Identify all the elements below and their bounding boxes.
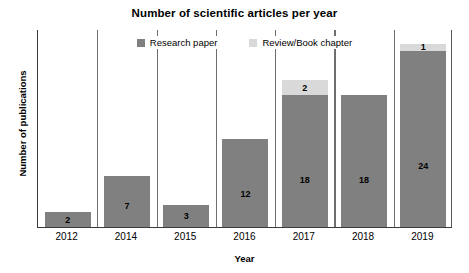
bar-slot: 18	[334, 30, 393, 227]
bar-stack[interactable]: 18	[341, 95, 387, 227]
bar-value-label: 2	[45, 216, 91, 225]
bar-slot: 2	[38, 30, 97, 227]
bar-segment-review-book-chapter[interactable]: 1	[400, 44, 446, 51]
bar-slot: 182	[275, 30, 334, 227]
bar-slot: 3	[157, 30, 216, 227]
bar-value-label: 24	[400, 162, 446, 171]
y-axis-title: Number of publications	[17, 44, 28, 204]
bar-stack[interactable]: 2	[45, 212, 91, 227]
bar-slot: 241	[394, 30, 453, 227]
x-axis-title: Year	[37, 253, 452, 264]
x-tick-label: 2015	[156, 231, 215, 242]
bar-value-label: 18	[282, 176, 328, 185]
x-tick-label: 2012	[37, 231, 96, 242]
x-tick-label: 2019	[393, 231, 452, 242]
bar-segment-research-paper[interactable]: 18	[341, 95, 387, 227]
bar-stack[interactable]: 12	[222, 139, 268, 227]
bar-segment-research-paper[interactable]: 12	[222, 139, 268, 227]
bar-value-label: 1	[400, 43, 446, 52]
chart-title: Number of scientific articles per year	[0, 7, 469, 19]
x-tick-label: 2014	[96, 231, 155, 242]
bar-value-label: 3	[163, 212, 209, 221]
bar-value-label: 18	[341, 176, 387, 185]
bar-segment-review-book-chapter[interactable]: 2	[282, 80, 328, 95]
bar-stack[interactable]: 182	[282, 80, 328, 227]
bar-stack[interactable]: 3	[163, 205, 209, 227]
bar-segment-research-paper[interactable]: 18	[282, 95, 328, 227]
bar-chart-figure: Number of scientific articles per year N…	[0, 0, 469, 273]
bar-segment-research-paper[interactable]: 24	[400, 51, 446, 227]
bar-value-label: 7	[104, 202, 150, 211]
x-tick-label: 2017	[274, 231, 333, 242]
bar-stack[interactable]: 7	[104, 176, 150, 227]
plot-inner: 2731218218241	[38, 30, 451, 227]
bar-segment-research-paper[interactable]: 7	[104, 176, 150, 227]
bar-stack[interactable]: 241	[400, 44, 446, 227]
bar-segment-research-paper[interactable]: 2	[45, 212, 91, 227]
bar-slot: 7	[97, 30, 156, 227]
bar-value-label: 2	[282, 84, 328, 93]
bar-value-label: 12	[222, 190, 268, 199]
bar-slot: 12	[216, 30, 275, 227]
plot-area: 2731218218241	[37, 30, 452, 228]
x-tick-label: 2016	[215, 231, 274, 242]
x-tick-label: 2018	[333, 231, 392, 242]
bar-segment-research-paper[interactable]: 3	[163, 205, 209, 227]
